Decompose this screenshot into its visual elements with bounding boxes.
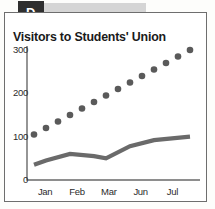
data-marker — [187, 47, 194, 54]
data-marker — [31, 131, 38, 138]
y-axis-tick-300: 300 — [2, 44, 28, 55]
data-marker — [163, 60, 170, 67]
data-marker — [91, 99, 98, 106]
data-marker — [67, 112, 74, 119]
x-axis-tick-jul: Jul — [157, 186, 187, 197]
data-marker — [175, 53, 182, 60]
y-axis-tick-200: 200 — [2, 87, 28, 98]
plot-area — [0, 0, 215, 209]
y-axis-tick-0: 0 — [2, 174, 28, 185]
chart-figure: D Visitors to Students' Union 0100200300… — [0, 0, 215, 209]
y-axis-tick-100: 100 — [2, 131, 28, 142]
data-marker — [151, 66, 158, 73]
x-axis-tick-feb: Feb — [62, 186, 92, 197]
data-marker — [115, 86, 122, 93]
data-marker — [139, 73, 146, 80]
chart-svg — [0, 0, 215, 209]
data-marker — [55, 118, 62, 125]
data-marker — [79, 105, 86, 112]
x-axis-tick-mar: Mar — [94, 186, 124, 197]
data-marker — [103, 92, 110, 99]
data-marker — [43, 125, 50, 132]
x-axis-tick-jun: Jun — [126, 186, 156, 197]
data-marker — [127, 79, 134, 86]
data-line — [34, 137, 190, 165]
x-axis-tick-jan: Jan — [30, 186, 60, 197]
